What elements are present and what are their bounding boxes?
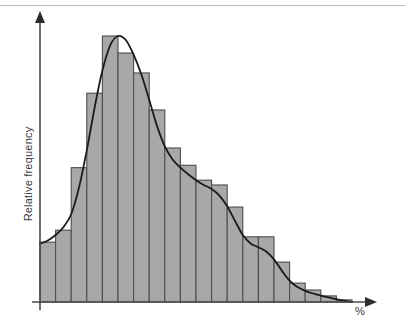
histogram-bar [180, 165, 196, 302]
bars-group [40, 36, 352, 302]
histogram-bar [134, 73, 150, 302]
histogram-bar [56, 230, 72, 302]
histogram-bar [196, 180, 212, 302]
histogram-figure: Relative frequency % [0, 0, 405, 333]
histogram-bar [290, 283, 306, 302]
x-axis-arrow-icon [365, 297, 377, 307]
histogram-bar [118, 53, 134, 302]
histogram-bar [87, 93, 103, 302]
y-axis-arrow-icon [35, 11, 45, 23]
x-axis-label: % [355, 305, 365, 317]
histogram-bar [102, 36, 118, 302]
y-axis-label: Relative frequency [22, 94, 34, 254]
chart-canvas [0, 0, 405, 333]
histogram-bar [165, 148, 181, 302]
histogram-bar [274, 262, 290, 302]
histogram-bar [258, 237, 274, 302]
histogram-bar [40, 242, 56, 302]
